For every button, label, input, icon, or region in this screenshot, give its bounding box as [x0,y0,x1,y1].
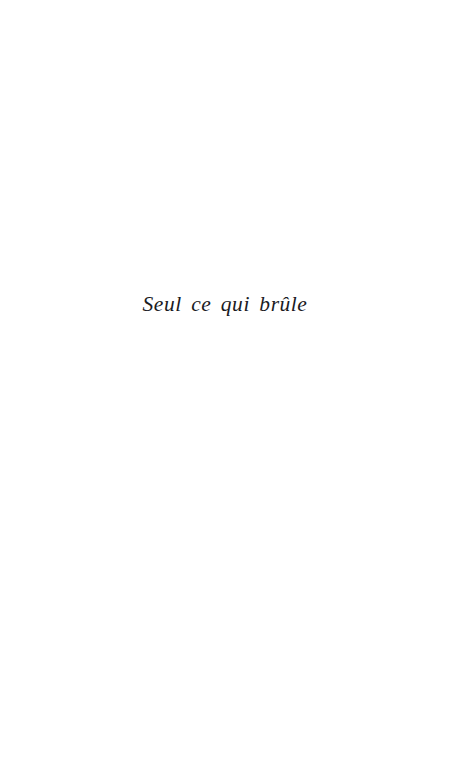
page-title: Seul ce qui brûle [143,291,308,317]
section-title-block: Seul ce qui brûle [0,291,450,317]
book-page: Seul ce qui brûle [0,0,450,757]
